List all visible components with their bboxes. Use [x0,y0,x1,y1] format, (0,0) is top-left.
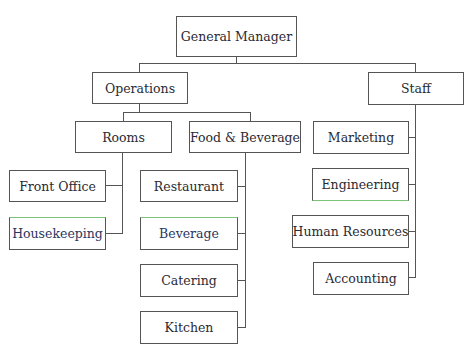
node-rooms: Rooms [75,121,172,153]
node-label: Food & Beverage [190,130,300,145]
node-housekeeping: Housekeeping [9,217,106,250]
node-staff: Staff [368,72,464,105]
connector [139,103,140,112]
node-human-resources: Human Resources [292,215,409,248]
node-label: Rooms [102,130,145,145]
node-label: Front Office [19,179,96,194]
connector [408,231,415,232]
node-accounting: Accounting [313,262,409,295]
node-label: Restaurant [154,179,224,194]
connector [123,112,124,121]
node-label: Engineering [321,177,399,192]
node-kitchen: Kitchen [140,311,238,344]
node-label: Operations [105,81,175,96]
node-engineering: Engineering [312,168,409,201]
connector [139,63,140,72]
node-label: Staff [401,81,431,96]
connector [237,233,245,234]
node-label: Beverage [159,226,219,241]
connector [408,137,415,138]
connector [245,152,246,328]
node-label: Housekeeping [12,226,103,241]
node-front-office: Front Office [9,170,106,202]
node-operations: Operations [92,72,188,104]
node-label: Kitchen [165,320,214,335]
connector [122,152,123,234]
node-restaurant: Restaurant [140,170,238,202]
connector [237,280,245,281]
connector [408,277,416,278]
connector [408,184,415,185]
connector [237,186,245,187]
connector [105,233,123,234]
connector [237,327,246,328]
node-general-manager: General Manager [176,16,297,57]
node-beverage: Beverage [140,217,238,250]
connector [105,185,122,186]
connector [415,104,416,278]
node-label: Catering [161,273,216,288]
connector [123,112,251,113]
connector [250,112,251,121]
node-label: Marketing [328,130,394,145]
node-label: General Manager [181,29,292,44]
node-catering: Catering [140,264,238,297]
node-label: Human Resources [293,224,409,239]
node-label: Accounting [325,271,397,286]
node-food-beverage: Food & Beverage [189,121,301,153]
connector [139,63,416,64]
node-marketing: Marketing [313,121,409,154]
connector [415,63,416,72]
